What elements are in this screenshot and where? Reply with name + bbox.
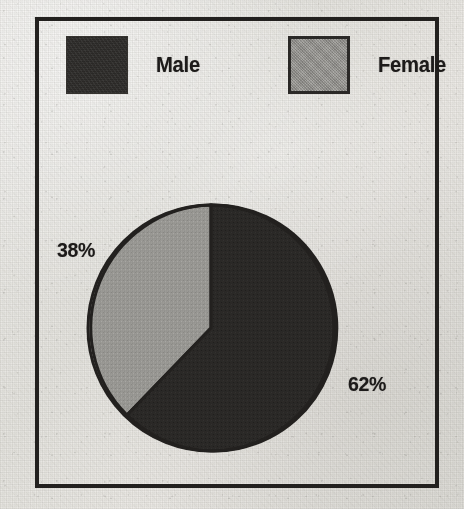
legend-item-female: Female bbox=[288, 36, 452, 94]
legend-swatch-male bbox=[66, 36, 128, 94]
pie-value-label-male: 62% bbox=[348, 372, 386, 396]
pie-chart-figure: Male Female bbox=[0, 0, 464, 509]
pie-chart-svg bbox=[83, 200, 339, 456]
legend-label-male: Male bbox=[156, 52, 200, 78]
legend-label-female: Female bbox=[378, 52, 446, 78]
pie-chart bbox=[83, 200, 339, 456]
pie-value-label-female: 38% bbox=[57, 238, 95, 262]
legend-swatch-female bbox=[288, 36, 350, 94]
legend-item-male: Male bbox=[66, 36, 204, 94]
